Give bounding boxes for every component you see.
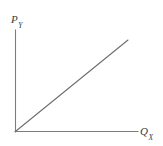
y-axis-label: PY [11,14,22,28]
x-axis-label-subscript: X [148,133,153,142]
chart-figure: PY QX [0,0,163,146]
x-axis-label: QX [140,126,153,140]
y-axis-label-symbol: P [11,13,18,25]
y-axis-label-subscript: Y [18,21,22,30]
data-series-line [16,40,128,131]
chart-plot-area [0,0,163,146]
x-axis-label-symbol: Q [140,125,148,137]
